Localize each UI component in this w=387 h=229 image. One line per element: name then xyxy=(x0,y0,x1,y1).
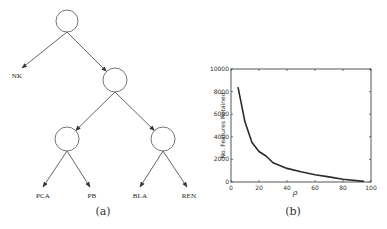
x-tick-label: 80 xyxy=(335,184,351,191)
features-line xyxy=(238,87,364,181)
x-tick-label: 60 xyxy=(307,184,323,191)
x-axis-label: ρ xyxy=(293,188,298,197)
caption-b: (b) xyxy=(285,205,301,218)
x-tick-label: 0 xyxy=(223,184,239,191)
features-chart xyxy=(0,0,387,229)
y-axis-label: No. Features Retained xyxy=(219,76,226,176)
plot-frame xyxy=(231,69,371,182)
y-tick-label: 10000 xyxy=(199,65,229,72)
x-tick-label: 20 xyxy=(251,184,267,191)
x-tick-label: 100 xyxy=(363,184,379,191)
y-tick-label: 0 xyxy=(199,178,229,185)
